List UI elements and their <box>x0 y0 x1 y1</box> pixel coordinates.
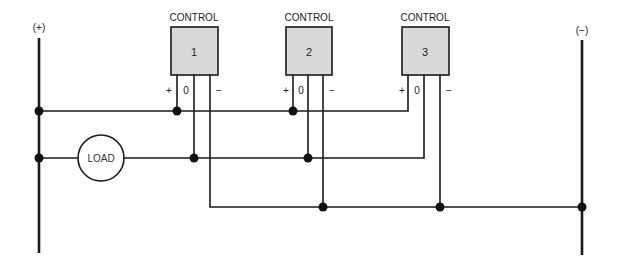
control-3-number: 3 <box>422 46 428 58</box>
junction-dot <box>289 107 298 116</box>
control-3-zero-label: 0 <box>414 85 420 96</box>
negative-bus-label: (−) <box>576 25 589 36</box>
junction-dot <box>319 203 328 212</box>
terminal-wires <box>39 75 582 207</box>
junction-dot <box>35 154 44 163</box>
control-2: CONTROL 2 + 0 − <box>283 12 335 96</box>
control-1-number: 1 <box>191 46 197 58</box>
control-1-minus-wire <box>210 75 582 207</box>
control-1-zero-label: 0 <box>183 85 189 96</box>
load: LOAD <box>78 135 124 181</box>
junction-dot <box>173 107 182 116</box>
control-2-number: 2 <box>306 46 312 58</box>
control-1-plus-label: + <box>166 85 172 96</box>
control-3-plus-wire <box>39 75 408 111</box>
control-3-minus-label: − <box>446 85 452 96</box>
control-3-plus-label: + <box>399 85 405 96</box>
control-1-header: CONTROL <box>170 12 219 23</box>
junction-dot <box>190 154 199 163</box>
control-1-minus-label: − <box>216 85 222 96</box>
control-3-header: CONTROL <box>401 12 450 23</box>
wiring-diagram: (+) (−) CONTROL 1 + 0 − CONTROL 2 + 0 − … <box>0 0 620 269</box>
positive-bus-label: (+) <box>33 22 46 33</box>
positive-bus: (+) <box>33 22 46 253</box>
control-3: CONTROL 3 + 0 − <box>399 12 452 96</box>
control-2-plus-label: + <box>283 85 289 96</box>
negative-bus: (−) <box>576 25 589 255</box>
load-label: LOAD <box>87 153 114 164</box>
junction-dot <box>436 203 445 212</box>
control-2-zero-label: 0 <box>298 85 304 96</box>
junction-dot <box>304 154 313 163</box>
control-2-minus-label: − <box>329 85 335 96</box>
control-2-header: CONTROL <box>285 12 334 23</box>
junction-dot <box>35 107 44 116</box>
junction-dot <box>578 203 587 212</box>
